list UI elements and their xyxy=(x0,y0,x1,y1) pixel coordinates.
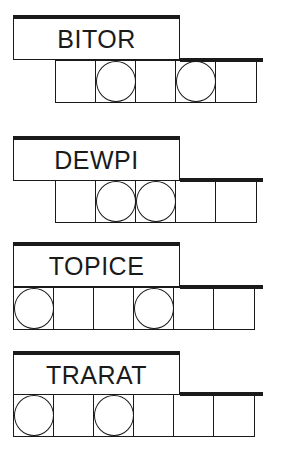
answer-square[interactable] xyxy=(175,180,217,223)
answer-square[interactable] xyxy=(55,60,97,103)
scrambled-word: TRARAT xyxy=(13,351,180,396)
scrambled-word: DEWPI xyxy=(13,136,180,181)
answer-square[interactable] xyxy=(53,287,95,330)
square-row-top-bar xyxy=(180,285,263,289)
circle-marker-icon xyxy=(96,181,136,222)
circle-marker-icon xyxy=(14,395,54,436)
answer-square[interactable] xyxy=(213,394,255,437)
answer-square[interactable] xyxy=(213,287,255,330)
circle-marker-icon xyxy=(96,61,136,102)
answer-square[interactable] xyxy=(215,60,257,103)
answer-squares xyxy=(13,287,255,330)
answer-square[interactable] xyxy=(133,287,175,330)
answer-square[interactable] xyxy=(93,287,135,330)
scrambled-word: TOPICE xyxy=(13,242,180,287)
answer-square[interactable] xyxy=(93,394,135,437)
answer-square[interactable] xyxy=(215,180,257,223)
scrambled-word: BITOR xyxy=(13,15,180,60)
answer-square[interactable] xyxy=(13,287,55,330)
square-row-top-bar xyxy=(180,392,263,396)
answer-square[interactable] xyxy=(173,394,215,437)
circle-marker-icon xyxy=(14,288,54,329)
answer-square[interactable] xyxy=(173,287,215,330)
answer-square[interactable] xyxy=(53,394,95,437)
answer-square[interactable] xyxy=(175,60,217,103)
circle-marker-icon xyxy=(94,395,134,436)
answer-square[interactable] xyxy=(133,394,175,437)
square-row-top-bar xyxy=(180,178,263,182)
answer-square[interactable] xyxy=(95,180,137,223)
square-row-top-bar xyxy=(180,58,263,62)
answer-square[interactable] xyxy=(135,180,177,223)
answer-square[interactable] xyxy=(13,394,55,437)
circle-marker-icon xyxy=(134,288,174,329)
answer-squares xyxy=(55,60,257,103)
answer-square[interactable] xyxy=(135,60,177,103)
answer-squares xyxy=(13,394,255,437)
answer-square[interactable] xyxy=(55,180,97,223)
circle-marker-icon xyxy=(136,181,176,222)
answer-square[interactable] xyxy=(95,60,137,103)
answer-squares xyxy=(55,180,257,223)
circle-marker-icon xyxy=(176,61,216,102)
